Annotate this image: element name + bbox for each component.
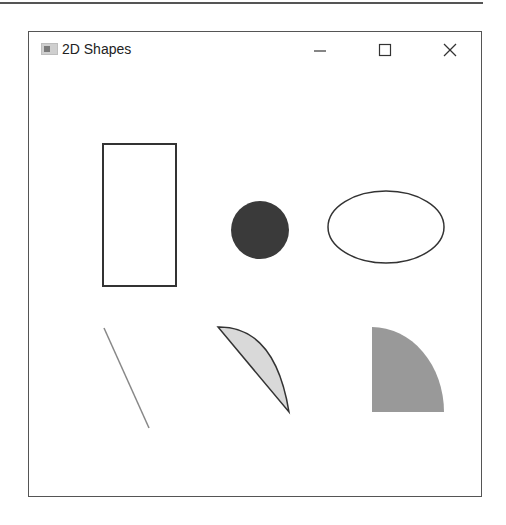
drawing-canvas [29,70,481,496]
app-window: 2D Shapes [28,31,482,497]
quarter-pie [372,327,444,412]
shapes-layer [1,1,506,525]
rectangle-outline [103,144,176,286]
filled-circle [231,201,289,259]
diagonal-line [104,328,149,428]
arc-chord [218,327,289,412]
ellipse-outline [328,191,444,263]
